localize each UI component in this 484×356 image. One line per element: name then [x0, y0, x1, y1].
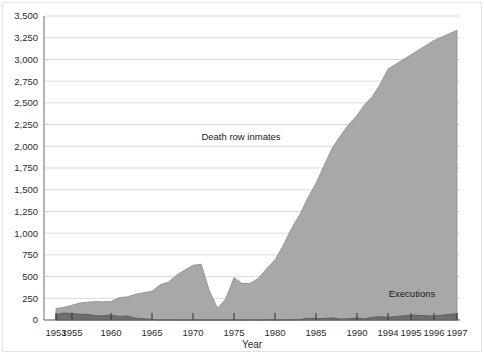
y-tick-label: 2,000 — [14, 141, 38, 152]
chart-container: 02505007501,0001,2501,5001,7502,0002,250… — [0, 0, 484, 356]
y-tick-label: 750 — [22, 249, 38, 260]
y-tick-label: 0 — [33, 314, 38, 325]
x-tick-label: 1985 — [305, 327, 326, 338]
x-tick-label: 1997 — [446, 327, 467, 338]
x-tick-label: 1965 — [141, 327, 162, 338]
y-tick-label: 2,250 — [14, 119, 38, 130]
x-tick-label: 1955 — [61, 327, 82, 338]
series-annotation-death-row-inmates: Death row inmates — [201, 131, 280, 142]
y-tick-label: 500 — [22, 271, 38, 282]
x-tick-label: 1970 — [182, 327, 203, 338]
y-tick-labels-group: 02505007501,0001,2501,5001,7502,0002,250… — [14, 10, 38, 325]
y-tick-label: 2,750 — [14, 76, 38, 87]
x-axis-title: Year — [242, 339, 263, 350]
x-tick-label: 1980 — [264, 327, 285, 338]
y-tick-label: 3,250 — [14, 32, 38, 43]
x-tick-label: 1995 — [400, 327, 421, 338]
y-tick-label: 3,500 — [14, 10, 38, 21]
y-tick-label: 1,250 — [14, 206, 38, 217]
y-tick-label: 3,000 — [14, 54, 38, 65]
x-tick-label: 1994 — [377, 327, 398, 338]
series-annotation-executions: Executions — [389, 288, 436, 299]
y-tick-label: 1,000 — [14, 228, 38, 239]
y-tick-label: 250 — [22, 293, 38, 304]
x-tick-labels-group: 1953195519601965197019751980198519901994… — [45, 327, 467, 338]
y-tick-label: 2,500 — [14, 97, 38, 108]
x-tick-label: 1996 — [423, 327, 444, 338]
x-tick-label: 1960 — [100, 327, 121, 338]
y-tick-label: 1,750 — [14, 162, 38, 173]
death-row-executions-area-chart: 02505007501,0001,2501,5001,7502,0002,250… — [0, 0, 484, 356]
x-tick-label: 1975 — [223, 327, 244, 338]
y-tick-label: 1,500 — [14, 184, 38, 195]
x-tick-label: 1990 — [346, 327, 367, 338]
